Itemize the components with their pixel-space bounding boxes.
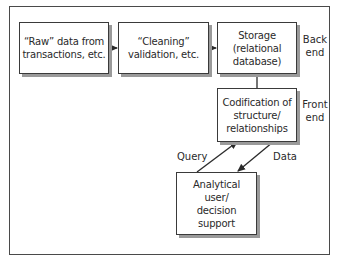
back-end-label: Back end [300, 33, 330, 59]
node-codification: Codification of structure/ relationships [217, 88, 297, 142]
front-end-label: Front end [299, 98, 331, 124]
node-raw-data: “Raw” data from transactions, etc. [19, 22, 109, 74]
query-label: Query [177, 150, 207, 163]
data-label: Data [272, 150, 298, 163]
node-storage: Storage (relational database) [217, 22, 297, 74]
node-cleaning: “Cleaning” validation, etc. [118, 22, 209, 74]
node-analytical-user: Analytical user/ decision support [176, 172, 257, 235]
